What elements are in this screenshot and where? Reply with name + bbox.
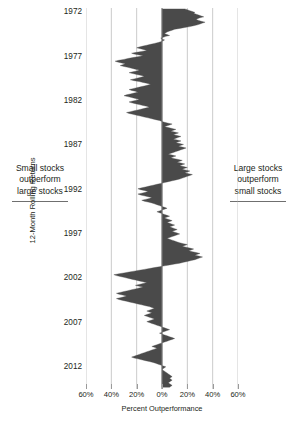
- x-tick-mark: [137, 384, 138, 389]
- x-tick-mark: [162, 384, 163, 389]
- x-tick-mark: [111, 384, 112, 389]
- x-tick-mark: [238, 384, 239, 389]
- x-tick-mark: [187, 384, 188, 389]
- x-tick-mark: [213, 384, 214, 389]
- x-tick-label: 60%: [221, 391, 255, 399]
- x-axis-tick-labels: 60%40%20%0%20%40%60%: [0, 0, 298, 424]
- chart-figure: Small stocks outperform large stocks Lar…: [0, 0, 298, 424]
- x-tick-mark: [86, 384, 87, 389]
- x-axis-title: Percent Outperformance: [86, 404, 238, 413]
